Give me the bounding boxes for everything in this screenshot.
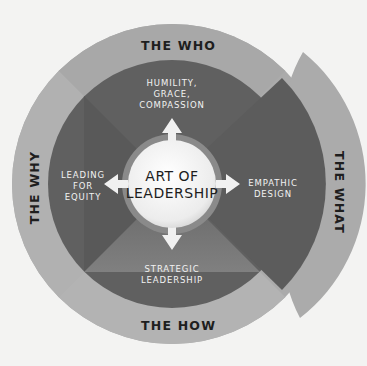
label-the-how: THE HOW	[141, 318, 216, 333]
label-strategic-leadership: STRATEGIC LEADERSHIP	[127, 264, 217, 286]
label-line: LEADING	[58, 170, 108, 181]
label-line: COMPASSION	[122, 100, 222, 111]
center-title-line: LEADERSHIP	[122, 185, 222, 202]
center-title-line: ART OF	[122, 168, 222, 185]
label-humility-grace-compassion: HUMILITY, GRACE, COMPASSION	[122, 78, 222, 111]
label-line: STRATEGIC	[127, 264, 217, 275]
label-line: LEADERSHIP	[127, 275, 217, 286]
label-line: FOR	[58, 181, 108, 192]
label-the-what: THE WHAT	[332, 148, 347, 238]
label-line: HUMILITY,	[122, 78, 222, 89]
label-line: EMPATHIC	[243, 178, 303, 189]
art-of-leadership-diagram: THE WHO THE HOW THE WHY THE WHAT HUMILIT…	[0, 0, 367, 366]
label-line: DESIGN	[243, 189, 303, 200]
label-line: GRACE,	[122, 89, 222, 100]
label-the-who: THE WHO	[141, 38, 216, 53]
label-leading-for-equity: LEADING FOR EQUITY	[58, 170, 108, 203]
label-line: EQUITY	[58, 192, 108, 203]
label-empathic-design: EMPATHIC DESIGN	[243, 178, 303, 200]
center-title: ART OF LEADERSHIP	[122, 168, 222, 202]
label-the-why: THE WHY	[27, 148, 42, 228]
